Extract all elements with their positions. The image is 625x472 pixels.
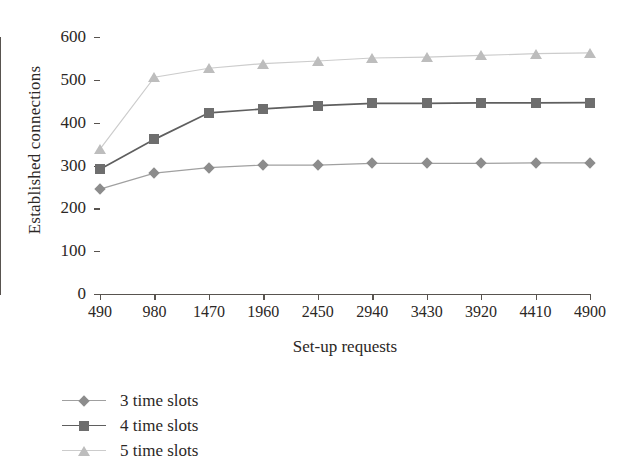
data-point-square — [258, 104, 268, 114]
legend-marker-triangle-icon — [62, 441, 106, 461]
series-line-5-time-slots — [100, 53, 590, 149]
legend-label: 5 time slots — [106, 441, 198, 461]
data-point-triangle — [312, 56, 324, 66]
legend-marker-diamond-icon — [62, 391, 106, 411]
data-point-triangle — [530, 49, 542, 59]
data-point-triangle — [366, 53, 378, 63]
data-point-triangle — [421, 52, 433, 62]
data-point-square — [95, 164, 105, 174]
data-point-square — [422, 98, 432, 108]
data-point-triangle — [94, 144, 106, 154]
data-point-square — [585, 98, 595, 108]
data-point-triangle — [257, 59, 269, 69]
series-line-4-time-slots — [100, 103, 590, 170]
legend-label: 4 time slots — [106, 416, 198, 436]
legend-item-3: 5 time slots — [62, 438, 322, 463]
legend-item-2: 4 time slots — [62, 413, 322, 438]
data-point-square — [313, 101, 323, 111]
x-axis-title: Set-up requests — [100, 337, 590, 357]
data-point-square — [531, 98, 541, 108]
line-chart: Established connections 0100200300400500… — [0, 0, 625, 472]
data-point-square — [367, 98, 377, 108]
legend-label: 3 time slots — [106, 391, 198, 411]
chart-legend: 3 time slots4 time slots5 time slots — [62, 388, 322, 463]
data-point-square — [149, 134, 159, 144]
data-point-square — [476, 98, 486, 108]
legend-marker-square-icon — [62, 416, 106, 436]
data-point-triangle — [584, 48, 596, 58]
series-line-3-time-slots — [100, 163, 590, 189]
data-point-triangle — [475, 50, 487, 60]
legend-item-1: 3 time slots — [62, 388, 322, 413]
data-point-triangle — [148, 72, 160, 82]
data-point-triangle — [203, 63, 215, 73]
data-point-square — [204, 108, 214, 118]
